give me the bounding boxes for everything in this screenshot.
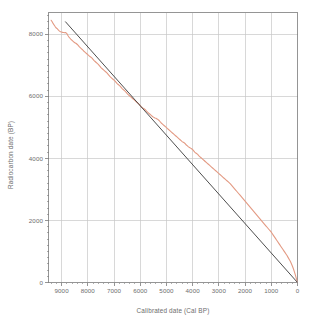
x-axis-title: Calibrated date (Cal BP): [137, 307, 210, 315]
y-tick-label: 6000: [29, 92, 44, 99]
x-tick-label: 5000: [159, 287, 174, 294]
x-tick-label: 4000: [186, 287, 201, 294]
y-tick-label: 0: [39, 279, 43, 286]
radiocarbon-calibration-chart: 9000800070006000500040003000200010000020…: [0, 0, 311, 321]
x-tick-label: 9000: [55, 287, 70, 294]
x-tick-label: 0: [296, 287, 300, 294]
x-tick-label: 7000: [107, 287, 122, 294]
x-tick-label: 2000: [238, 287, 253, 294]
y-tick-label: 2000: [29, 217, 44, 224]
x-tick-label: 8000: [81, 287, 96, 294]
y-axis-title: Radiocarbon date (BP): [7, 121, 15, 189]
x-tick-label: 1000: [264, 287, 279, 294]
chart-canvas: 9000800070006000500040003000200010000020…: [0, 0, 311, 321]
x-tick-label: 6000: [133, 287, 148, 294]
y-tick-label: 8000: [29, 30, 44, 37]
chart-background: [0, 0, 311, 321]
y-tick-label: 4000: [29, 155, 44, 162]
x-tick-label: 3000: [212, 287, 227, 294]
